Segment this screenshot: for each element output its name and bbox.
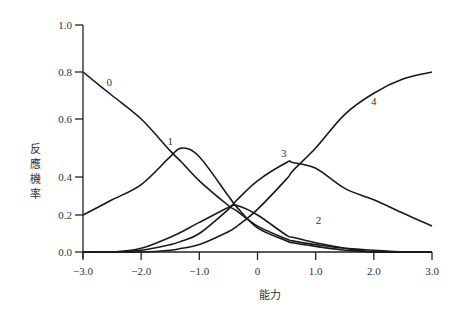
curve-label-4: 4 [371,95,377,107]
curve-label-0: 0 [106,76,112,88]
y-tick-label: 0.6 [58,113,72,125]
curve-3 [83,161,432,252]
x-tick-label: 0 [255,265,261,277]
curve-0 [83,72,432,252]
chart-svg: 0.00.20.40.60.81.0−3.0−2.0−1.001.02.03.0… [0,0,461,317]
x-axis-label: 能力 [259,288,281,302]
y-axis-label: 反 應 機 率 [30,143,41,201]
y-tick-label: 0.0 [58,246,72,258]
x-tick-label: −2.0 [131,265,151,277]
curve-label-1: 1 [168,135,174,147]
svg-text:率: 率 [30,187,41,201]
curve-1 [83,148,432,252]
curve-label-3: 3 [281,147,287,159]
curves [83,72,432,252]
curve-labels: 01234 [106,76,377,226]
svg-text:應: 應 [30,157,41,171]
y-tick-label: 0.8 [58,66,72,78]
x-tick-label: −1.0 [189,265,209,277]
x-tick-label: −3.0 [73,265,93,277]
curve-label-2: 2 [316,214,322,226]
svg-text:反: 反 [30,143,41,156]
y-tick-label: 0.4 [58,171,72,183]
x-tick-label: 3.0 [425,265,439,277]
x-tick-label: 2.0 [367,265,381,277]
y-tick-label: 0.2 [58,209,72,221]
svg-text:機: 機 [30,172,41,186]
axes: 0.00.20.40.60.81.0−3.0−2.0−1.001.02.03.0 [58,19,439,277]
curve-4 [83,72,432,252]
x-tick-label: 1.0 [309,265,323,277]
y-tick-label: 1.0 [58,19,72,31]
